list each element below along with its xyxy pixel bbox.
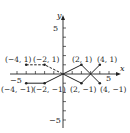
x-axis-label: x xyxy=(120,64,125,73)
label-m4-1: (−4, 1) xyxy=(5,55,32,64)
label-m2-m1: (−2, −1) xyxy=(33,85,66,94)
series-dashed-upper-left xyxy=(25,64,63,74)
y-tick-5: 5 xyxy=(53,24,58,33)
label-4-m1: (4, −1) xyxy=(100,85,127,94)
coordinate-plane: y x 5 −5 −5 5 (−4, 1) (−2, 1) (2, 1) (4,… xyxy=(0,0,130,133)
series-solid-lower-left xyxy=(25,74,63,84)
y-axis-arrow-icon xyxy=(61,15,65,20)
x-tick-5: 5 xyxy=(106,74,111,83)
label-2-1: (2, 1) xyxy=(72,55,92,64)
y-axis-label: y xyxy=(56,11,62,20)
x-tick-m5: −5 xyxy=(10,76,22,85)
label-4-1: (4, 1) xyxy=(97,55,117,64)
y-axis xyxy=(61,15,66,128)
label-2-m1: (2, −1) xyxy=(70,85,97,94)
label-m2-1: (−2, 1) xyxy=(33,55,60,64)
label-m4-m1: (−4, −1) xyxy=(1,85,34,94)
y-tick-m5: −5 xyxy=(49,116,61,125)
